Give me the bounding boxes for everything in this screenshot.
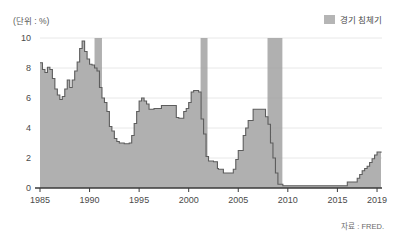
y-axis-tick-label: 4: [26, 123, 31, 133]
chart-plot-area: 024681019851990199520002005201020152019: [0, 0, 394, 240]
x-axis-tick-label: 1985: [30, 195, 50, 205]
y-axis-tick-label: 6: [26, 93, 31, 103]
x-axis-tick-label: 2015: [327, 195, 347, 205]
x-axis-tick-label: 2019: [367, 195, 387, 205]
source-note: 자료 : FRED.: [341, 220, 384, 231]
y-axis-tick-label: 8: [26, 63, 31, 73]
x-axis-tick-label: 1995: [129, 195, 149, 205]
x-axis-tick-label: 1990: [80, 195, 100, 205]
x-axis-tick-label: 2010: [278, 195, 298, 205]
series-area-policy-rate: [40, 41, 381, 188]
y-axis-tick-label: 2: [26, 153, 31, 163]
y-axis-tick-label: 10: [21, 33, 31, 43]
x-axis-tick-label: 2005: [228, 195, 248, 205]
chart-figure: (단위 : %) 경기 침체기 024681019851990199520002…: [0, 0, 394, 240]
y-axis-tick-label: 0: [26, 183, 31, 193]
x-axis-tick-label: 2000: [179, 195, 199, 205]
